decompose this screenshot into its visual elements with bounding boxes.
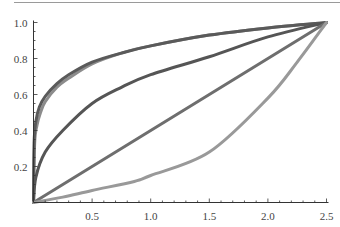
y-tick-label: 0.2 <box>14 161 28 173</box>
y-tick-label: 0.6 <box>14 89 28 101</box>
x-tick-label: 0.5 <box>85 210 99 222</box>
line-chart: 0.51.01.52.02.5 0.20.40.60.81.0 <box>0 0 340 227</box>
x-tick-label: 2.5 <box>320 210 334 222</box>
series-layer <box>34 23 327 203</box>
x-tick-label: 1.0 <box>144 210 158 222</box>
x-ticks: 0.51.01.52.02.5 <box>45 199 334 222</box>
y-tick-label: 0.8 <box>14 53 28 65</box>
x-tick-label: 1.5 <box>202 210 216 222</box>
x-tick-label: 2.0 <box>261 210 275 222</box>
y-tick-label: 1.0 <box>14 17 28 29</box>
y-tick-label: 0.4 <box>14 125 28 137</box>
series-line-linear <box>34 23 327 203</box>
